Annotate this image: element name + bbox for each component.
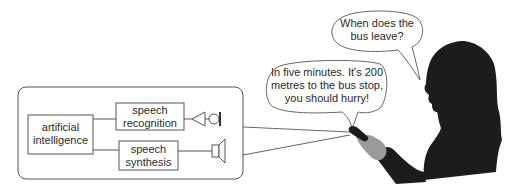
microphone-icon xyxy=(192,112,220,126)
question-line1: When does the xyxy=(334,17,420,30)
system-answer-text: In five minutes. It's 200 metres to the … xyxy=(268,66,386,105)
woman-body xyxy=(424,41,502,180)
ai-label-line1: artificial xyxy=(28,121,93,134)
ai-label: artificial intelligence xyxy=(28,121,93,147)
answer-line1: In five minutes. It's 200 xyxy=(268,66,386,79)
diagram-graphics xyxy=(0,0,518,190)
speech-synthesis-label: speech synthesis xyxy=(119,143,178,169)
speech-dialogue-diagram: artificial intelligence speech recogniti… xyxy=(0,0,518,190)
link-line-top xyxy=(243,127,350,132)
answer-line3: you should hurry! xyxy=(268,92,386,105)
speaker-icon xyxy=(212,139,225,163)
question-line2: bus leave? xyxy=(334,30,420,43)
speech-synthesis-line1: speech xyxy=(119,143,178,156)
answer-line2: metres to the bus stop, xyxy=(268,79,386,92)
link-line-bottom xyxy=(243,135,350,155)
speech-synthesis-line2: synthesis xyxy=(119,156,178,169)
speech-recognition-line1: speech xyxy=(116,104,184,117)
speech-recognition-line2: recognition xyxy=(116,117,184,130)
speech-recognition-label: speech recognition xyxy=(116,104,184,130)
ai-label-line2: intelligence xyxy=(28,134,93,147)
user-question-text: When does the bus leave? xyxy=(334,17,420,43)
